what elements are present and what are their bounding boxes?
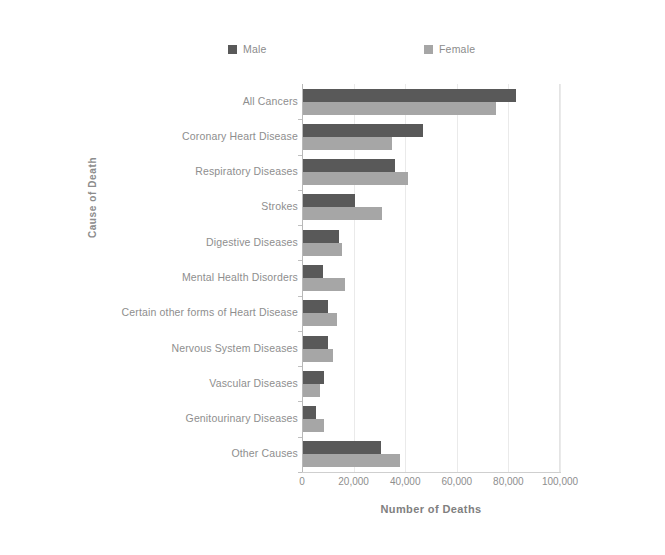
y-axis-tick-label: Nervous System Diseases (8, 342, 298, 354)
bar-group (302, 84, 560, 119)
plot-area (302, 84, 560, 472)
y-axis-tick-label: Genitourinary Diseases (8, 412, 298, 424)
chart-legend: Male Female (228, 40, 528, 58)
x-axis-tick-label: 0 (299, 476, 305, 487)
bar-female[interactable] (302, 349, 333, 362)
bar-group (302, 296, 560, 331)
legend-swatch-male-icon (228, 45, 237, 54)
bar-group (302, 366, 560, 401)
bar-group (302, 119, 560, 154)
y-axis-tick-label: Coronary Heart Disease (8, 130, 298, 142)
x-axis-tick-label: 100,000 (542, 476, 578, 487)
x-axis-line (302, 472, 561, 473)
legend-entry-male[interactable]: Male (228, 40, 267, 58)
y-axis-tick-label: All Cancers (8, 95, 298, 107)
bar-group (302, 190, 560, 225)
bar-male[interactable] (302, 265, 323, 278)
x-axis-title: Number of Deaths (302, 503, 560, 515)
bar-female[interactable] (302, 102, 496, 115)
bar-group (302, 401, 560, 436)
gridline (560, 84, 561, 472)
bar-group (302, 331, 560, 366)
y-axis-tick-label: Mental Health Disorders (8, 271, 298, 283)
bar-male[interactable] (302, 159, 395, 172)
bar-female[interactable] (302, 313, 337, 326)
bar-female[interactable] (302, 454, 400, 467)
legend-label-male: Male (243, 43, 267, 55)
x-axis-tick-label: 20,000 (338, 476, 369, 487)
bar-female[interactable] (302, 384, 320, 397)
bar-group (302, 225, 560, 260)
y-axis-line (302, 84, 303, 473)
bar-male[interactable] (302, 371, 324, 384)
bar-female[interactable] (302, 137, 392, 150)
x-axis-tick-label: 40,000 (390, 476, 421, 487)
bar-female[interactable] (302, 207, 382, 220)
legend-entry-female[interactable]: Female (424, 40, 475, 58)
y-axis-tick-label: Certain other forms of Heart Disease (8, 306, 298, 318)
bar-group (302, 437, 560, 472)
bar-male[interactable] (302, 194, 355, 207)
bar-female[interactable] (302, 278, 345, 291)
bar-chart: Male Female Cause of Death All CancersCo… (0, 0, 665, 555)
bar-male[interactable] (302, 124, 423, 137)
y-axis-tick-labels: All CancersCoronary Heart DiseaseRespira… (6, 84, 298, 472)
bar-male[interactable] (302, 406, 316, 419)
bar-male[interactable] (302, 89, 516, 102)
legend-label-female: Female (439, 43, 475, 55)
x-axis-tick-label: 80,000 (493, 476, 524, 487)
y-axis-tick-label: Other Causes (8, 447, 298, 459)
bar-male[interactable] (302, 336, 328, 349)
legend-swatch-female-icon (424, 45, 433, 54)
bar-male[interactable] (302, 230, 339, 243)
y-axis-tick-label: Digestive Diseases (8, 236, 298, 248)
bar-male[interactable] (302, 300, 328, 313)
bar-female[interactable] (302, 419, 324, 432)
bar-group (302, 155, 560, 190)
bar-female[interactable] (302, 172, 408, 185)
x-axis-tick-labels: 020,00040,00060,00080,000100,000 (302, 476, 560, 492)
y-axis-tick-label: Respiratory Diseases (8, 165, 298, 177)
bar-male[interactable] (302, 441, 381, 454)
y-axis-tick-label: Vascular Diseases (8, 377, 298, 389)
bar-group (302, 260, 560, 295)
bar-female[interactable] (302, 243, 342, 256)
x-axis-tick-label: 60,000 (442, 476, 473, 487)
y-axis-tick-label: Strokes (8, 200, 298, 212)
